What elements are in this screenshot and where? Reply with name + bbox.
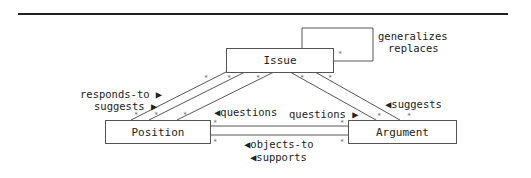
position-node: Position	[105, 120, 211, 144]
questions-label-right: questions ▶	[289, 108, 359, 120]
multiplicity-star: *	[204, 75, 208, 82]
self-loop-label-generalizes: generalizes	[378, 30, 448, 42]
argument-node: Argument	[348, 120, 457, 144]
issue-node: Issue	[226, 48, 334, 73]
multiplicity-star: *	[340, 120, 344, 127]
self-loop-label-replaces: replaces	[388, 42, 439, 54]
suggests-label-left: suggests ▶	[94, 100, 157, 112]
position-label: Position	[132, 126, 185, 139]
objects-to-label: ◀objects-to	[244, 138, 314, 150]
multiplicity-star: *	[227, 75, 231, 82]
multiplicity-star: *	[340, 139, 344, 146]
multiplicity-star: *	[213, 139, 217, 146]
multiplicity-star: *	[256, 75, 260, 82]
issue-label: Issue	[263, 54, 296, 67]
responds-to-label: responds-to ▶	[80, 88, 162, 100]
multiplicity-star: *	[377, 113, 381, 120]
suggests-label-right: ◀suggests	[385, 98, 442, 110]
multiplicity-star: *	[328, 75, 332, 82]
multiplicity-star: *	[134, 112, 138, 119]
multiplicity-star: *	[300, 75, 304, 82]
argument-label: Argument	[376, 126, 429, 139]
supports-label: ◀supports	[250, 151, 307, 163]
multiplicity-star: *	[213, 120, 217, 127]
multiplicity-star: *	[407, 113, 411, 120]
multiplicity-star: *	[183, 112, 187, 119]
multiplicity-star: *	[338, 51, 342, 58]
multiplicity-star: *	[154, 112, 158, 119]
questions-label-left: ◀questions	[214, 106, 277, 118]
